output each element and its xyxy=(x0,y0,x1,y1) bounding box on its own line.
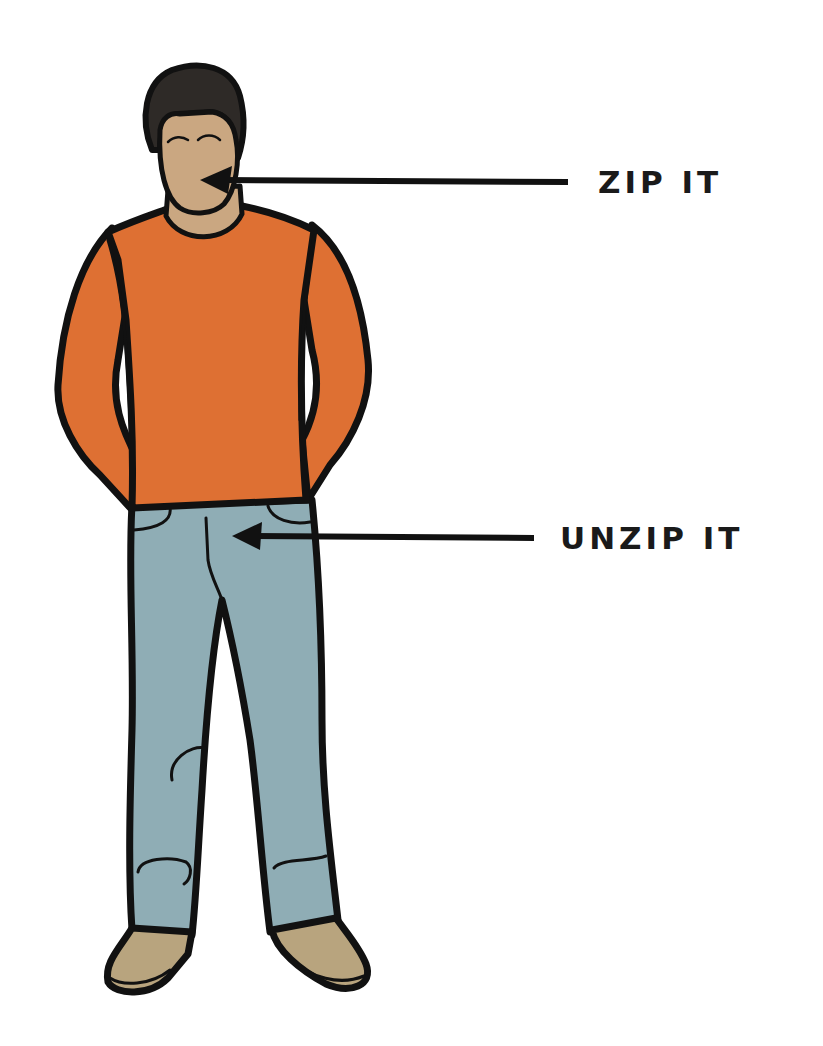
face xyxy=(160,112,238,213)
arrow-zip xyxy=(200,166,568,194)
shirt xyxy=(108,206,314,508)
zip-it-label: ZIP IT xyxy=(598,164,722,200)
unzip-it-label: UNZIP IT xyxy=(560,520,743,556)
jeans xyxy=(130,500,338,935)
